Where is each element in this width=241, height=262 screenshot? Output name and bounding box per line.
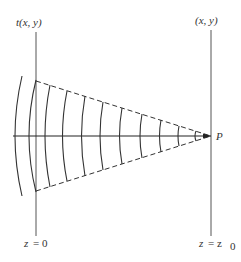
label-eq-zero: = 0 (33, 237, 48, 249)
label-z0-subscript: 0 (230, 240, 236, 252)
label-t-xy: t(x, y) (16, 16, 42, 29)
label-z-left: z (23, 237, 29, 249)
label-xy: (x, y) (195, 14, 218, 27)
diffraction-diagram: t(x, y) (x, y) P z = 0 z = z 0 (0, 0, 241, 262)
label-z-right: z (198, 237, 204, 249)
label-p: P (215, 130, 223, 142)
label-eq-z0: = z (208, 237, 222, 249)
